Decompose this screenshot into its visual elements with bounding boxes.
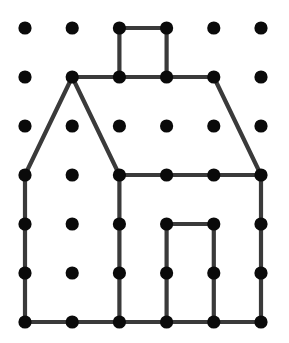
peg-dot-r5-c0: [18, 266, 31, 279]
peg-dot-r2-c4: [207, 119, 220, 132]
peg-dot-r5-c5: [254, 266, 267, 279]
peg-dot-r6-c2: [113, 315, 126, 328]
peg-dot-r4-c0: [18, 217, 31, 230]
peg-dot-r1-c2: [113, 70, 126, 83]
peg-dot-r5-c1: [66, 266, 79, 279]
peg-dot-r6-c4: [207, 315, 220, 328]
peg-dot-r6-c1: [66, 315, 79, 328]
peg-dot-r4-c4: [207, 217, 220, 230]
peg-dot-r5-c3: [160, 266, 173, 279]
peg-dot-r2-c0: [18, 119, 31, 132]
peg-dot-r1-c1: [66, 70, 79, 83]
peg-dot-r3-c0: [18, 168, 31, 181]
peg-dot-r5-c2: [113, 266, 126, 279]
peg-dot-r1-c0: [18, 70, 31, 83]
peg-dot-r0-c0: [18, 21, 31, 34]
peg-dot-r4-c3: [160, 217, 173, 230]
peg-dot-r5-c4: [207, 266, 220, 279]
peg-dot-r2-c3: [160, 119, 173, 132]
peg-dot-r0-c3: [160, 21, 173, 34]
peg-dot-r4-c1: [66, 217, 79, 230]
peg-dot-r6-c3: [160, 315, 173, 328]
peg-dot-r4-c5: [254, 217, 267, 230]
peg-dot-r1-c5: [254, 70, 267, 83]
peg-dot-r6-c5: [254, 315, 267, 328]
peg-dot-r2-c1: [66, 119, 79, 132]
peg-dot-r3-c1: [66, 168, 79, 181]
peg-dot-r0-c2: [113, 21, 126, 34]
peg-dot-r3-c5: [254, 168, 267, 181]
peg-dot-r3-c2: [113, 168, 126, 181]
geoboard-figure: [0, 0, 289, 343]
figure-background: [0, 0, 289, 343]
peg-dot-r4-c2: [113, 217, 126, 230]
peg-dot-r1-c3: [160, 70, 173, 83]
peg-dot-r3-c3: [160, 168, 173, 181]
peg-dot-r6-c0: [18, 315, 31, 328]
peg-dot-r0-c1: [66, 21, 79, 34]
peg-dot-r2-c5: [254, 119, 267, 132]
peg-dot-r1-c4: [207, 70, 220, 83]
peg-dot-r0-c5: [254, 21, 267, 34]
geoboard-canvas: [0, 0, 289, 343]
peg-dot-r0-c4: [207, 21, 220, 34]
peg-dot-r2-c2: [113, 119, 126, 132]
peg-dot-r3-c4: [207, 168, 220, 181]
